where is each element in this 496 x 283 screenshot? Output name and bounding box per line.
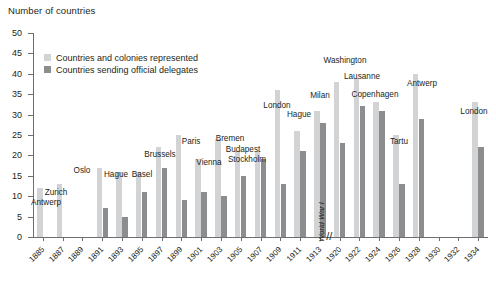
city-label: Paris xyxy=(182,137,201,146)
x-tick-mark xyxy=(142,237,143,241)
bar xyxy=(261,159,266,237)
y-tick-label: 5 xyxy=(17,212,22,222)
bar xyxy=(142,192,147,237)
axis-break-marker: // xyxy=(326,231,332,242)
y-axis-title: Number of countries xyxy=(8,5,95,16)
x-tick-label: 1924 xyxy=(364,245,383,264)
x-tick-label: 1911 xyxy=(285,245,304,264)
x-tick-mark xyxy=(201,237,202,241)
bar xyxy=(37,188,42,237)
bar xyxy=(478,147,483,237)
x-tick-label: 1893 xyxy=(106,245,125,264)
bar xyxy=(354,78,359,237)
x-tick-mark xyxy=(261,237,262,241)
legend-swatch-icon-dark xyxy=(44,66,51,73)
y-tick-mark xyxy=(28,135,33,136)
bar xyxy=(235,151,240,237)
y-tick-label: 15 xyxy=(12,171,22,181)
y-tick-label: 45 xyxy=(12,48,22,58)
bar xyxy=(176,135,181,237)
bar xyxy=(340,143,345,237)
city-label: Copenhagen xyxy=(352,90,399,99)
city-label: Milan xyxy=(310,91,330,100)
x-tick-mark xyxy=(419,237,420,241)
bar xyxy=(103,208,108,237)
bar xyxy=(360,106,365,237)
bar xyxy=(281,184,286,237)
x-tick-mark xyxy=(241,237,242,241)
x-tick-label: 1907 xyxy=(245,245,264,264)
city-label: Antwerp xyxy=(407,79,437,88)
bar xyxy=(195,159,200,237)
world-war-annotation: World War I xyxy=(317,202,326,242)
y-tick-label: 20 xyxy=(12,150,22,160)
bar xyxy=(334,82,339,237)
city-label: London xyxy=(263,101,290,110)
x-tick-label: 1913 xyxy=(304,245,323,264)
x-tick-mark xyxy=(300,237,301,241)
x-tick-mark xyxy=(63,237,64,241)
bar xyxy=(241,176,246,237)
x-tick-label: 1885 xyxy=(27,245,46,264)
bar xyxy=(116,172,121,237)
bar xyxy=(136,172,141,237)
city-label: Zurich xyxy=(45,188,68,197)
city-label: Brussels xyxy=(144,150,175,159)
y-tick-label: 30 xyxy=(12,110,22,120)
y-tick-label: 50 xyxy=(12,28,22,38)
bar xyxy=(215,139,220,237)
y-tick-mark xyxy=(28,74,33,75)
bar xyxy=(294,131,299,237)
city-label: Lausanne xyxy=(344,72,380,81)
x-tick-label: 1920 xyxy=(324,245,343,264)
x-tick-mark xyxy=(43,237,44,241)
bar xyxy=(156,147,161,237)
bar xyxy=(393,135,398,237)
bar xyxy=(300,151,305,237)
city-label: Hague xyxy=(287,110,311,119)
x-tick-mark xyxy=(379,237,380,241)
city-label: Vienna xyxy=(196,158,221,167)
legend-item-represented: Countries and colonies represented xyxy=(44,52,198,63)
x-tick-mark xyxy=(458,237,459,241)
y-tick-mark xyxy=(28,176,33,177)
x-tick-mark xyxy=(221,237,222,241)
city-label: Budapest xyxy=(226,145,261,154)
y-tick-label: 0 xyxy=(17,232,22,242)
x-tick-label: 1905 xyxy=(225,245,244,264)
x-tick-label: 1891 xyxy=(87,245,106,264)
x-tick-label: 1932 xyxy=(443,245,462,264)
bar xyxy=(182,200,187,237)
bar xyxy=(413,74,418,237)
city-label: Oslo xyxy=(74,166,91,175)
x-tick-mark xyxy=(280,237,281,241)
y-tick-label: 25 xyxy=(12,130,22,140)
y-tick-label: 40 xyxy=(12,69,22,79)
x-tick-mark xyxy=(478,237,479,241)
chart-figure: Number of countries 05101520253035404550… xyxy=(0,0,496,283)
x-tick-mark xyxy=(102,237,103,241)
bar xyxy=(221,196,226,237)
x-tick-label: 1899 xyxy=(166,245,185,264)
x-tick-label: 1895 xyxy=(126,245,145,264)
x-tick-mark xyxy=(359,237,360,241)
x-tick-mark xyxy=(181,237,182,241)
city-label: Antwerp xyxy=(31,198,61,207)
x-tick-label: 1926 xyxy=(383,245,402,264)
bar xyxy=(122,217,127,237)
x-tick-label: 1930 xyxy=(423,245,442,264)
city-label: Stockholm xyxy=(228,155,266,164)
y-tick-mark xyxy=(28,53,33,54)
y-tick-mark xyxy=(28,155,33,156)
legend-item-delegates: Countries sending official delegates xyxy=(44,64,198,75)
legend-label-represented: Countries and colonies represented xyxy=(56,53,198,63)
y-tick-mark xyxy=(28,237,33,238)
x-tick-mark xyxy=(162,237,163,241)
city-label: Hague xyxy=(104,170,128,179)
bar xyxy=(275,90,280,237)
y-tick-mark xyxy=(28,94,33,95)
x-tick-mark xyxy=(340,237,341,241)
x-tick-label: 1889 xyxy=(67,245,86,264)
y-tick-mark xyxy=(28,33,33,34)
legend-label-delegates: Countries sending official delegates xyxy=(56,65,198,75)
